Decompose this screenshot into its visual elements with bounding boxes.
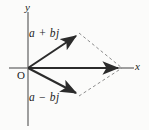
y-axis-label: y (25, 2, 30, 13)
vector-label-a-minus-bj: a − bj (29, 92, 60, 104)
dashed-construction-upper (79, 33, 122, 68)
dashed-construction-lower (79, 68, 122, 96)
vector-label-a-plus-bj: a + bj (29, 28, 60, 40)
complex-plane-figure: y x O a + bj a − bj (0, 0, 149, 130)
vector-diagram-canvas (0, 0, 149, 130)
vector-a-minus-bj (28, 68, 76, 93)
vector-a-plus-bj (28, 36, 76, 68)
x-axis-label: x (135, 61, 140, 72)
origin-label: O (17, 70, 25, 81)
